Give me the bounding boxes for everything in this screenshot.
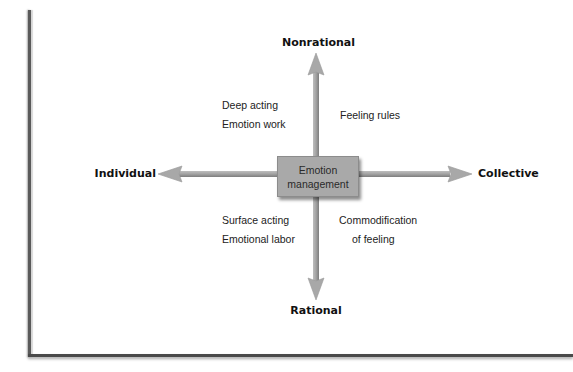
- arrowhead-right-icon: [448, 166, 472, 182]
- arrowhead-down-icon: [308, 278, 324, 300]
- arrowhead-up-icon: [308, 53, 324, 75]
- quadrant-top-left: Deep acting Emotion work: [222, 96, 286, 134]
- quadrant-text: Surface acting: [222, 211, 295, 230]
- quadrant-text: Feeling rules: [340, 106, 400, 125]
- axis-label-collective: Collective: [478, 167, 539, 180]
- center-box-line1: Emotion: [299, 163, 338, 177]
- center-box-line2: management: [287, 177, 348, 191]
- quadrant-bottom-left: Surface acting Emotional labor: [222, 211, 295, 249]
- axis-label-nonrational: Nonrational: [282, 36, 350, 49]
- arrowhead-left-icon: [158, 166, 182, 182]
- quadrant-text: Emotion work: [222, 115, 286, 134]
- axis-label-rational: Rational: [290, 304, 342, 317]
- axis-label-individual: Individual: [90, 167, 156, 180]
- quadrant-text: Deep acting: [222, 96, 286, 115]
- quadrant-text: of feeling: [339, 230, 417, 249]
- quadrant-top-right: Feeling rules: [340, 106, 400, 125]
- quadrant-text: Commodification: [339, 211, 417, 230]
- quadrant-bottom-right: Commodification of feeling: [339, 211, 417, 249]
- quadrant-text: Emotional labor: [222, 230, 295, 249]
- emotion-management-box: Emotion management: [277, 156, 359, 197]
